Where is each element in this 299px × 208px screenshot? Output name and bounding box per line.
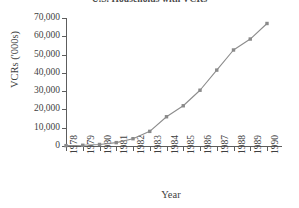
chart-title: U.S. Households with VCRs [0, 0, 299, 4]
x-axis-title: Year [60, 189, 282, 200]
data-point [81, 144, 84, 147]
data-series [66, 18, 282, 148]
data-point [64, 144, 67, 147]
data-point [165, 115, 168, 118]
y-axis-tick-label: 30,000 [34, 86, 60, 96]
data-point [215, 68, 218, 71]
y-axis-tick-label: 20,000 [34, 105, 60, 115]
data-point [115, 141, 118, 144]
data-point [265, 22, 268, 25]
y-axis-tick-label: 60,000 [34, 32, 60, 42]
plot-area: 010,00020,00030,00040,00050,00060,00070,… [66, 18, 281, 146]
y-axis-title: VCRs ('000s) [9, 15, 20, 105]
data-point [148, 130, 151, 133]
y-axis-tick-label: 10,000 [34, 123, 60, 133]
data-point [249, 37, 252, 40]
data-point [131, 137, 134, 140]
y-axis-tick-label: 40,000 [34, 68, 60, 78]
data-point [98, 143, 101, 146]
y-axis-tick-label: 50,000 [34, 50, 60, 60]
data-point [182, 104, 185, 107]
data-point [232, 48, 235, 51]
chart-figure: U.S. Households with VCRs VCRs ('000s) 0… [0, 0, 299, 208]
y-axis-tick-label: 70,000 [34, 13, 60, 23]
data-point [198, 89, 201, 92]
y-axis-tick-label: 0 [55, 141, 60, 151]
